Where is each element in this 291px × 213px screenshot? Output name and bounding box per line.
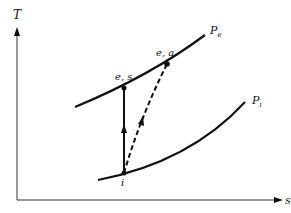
actual-arrow-icon xyxy=(138,116,144,126)
isentropic-process-line xyxy=(121,88,127,173)
isobar-pe: Pe xyxy=(75,24,222,107)
point-ea-marker xyxy=(164,61,170,67)
y-axis-arrow-icon xyxy=(14,27,20,36)
isentropic-arrow-icon xyxy=(121,124,127,133)
point-es-marker xyxy=(122,86,127,91)
isobar-pi-label: Pi xyxy=(251,94,262,109)
x-axis-arrow-icon xyxy=(274,197,283,203)
point-es-label: e, s xyxy=(115,71,132,82)
y-axis-label: T xyxy=(13,8,22,22)
isobar-pe-label: Pe xyxy=(209,24,222,39)
x-axis: s xyxy=(17,194,291,207)
point-ea-label: e, a xyxy=(156,47,174,58)
x-axis-label: s xyxy=(285,194,291,207)
point-i-label: i xyxy=(121,177,124,188)
isobar-pi: Pi xyxy=(98,94,262,180)
y-axis: T xyxy=(13,8,22,200)
ts-diagram: T s Pe Pi xyxy=(0,0,291,213)
point-i-marker xyxy=(122,171,127,176)
